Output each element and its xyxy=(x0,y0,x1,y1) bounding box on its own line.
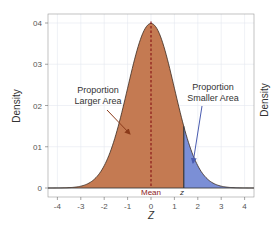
y-tick-label: 03 xyxy=(33,60,42,69)
larger-area-label-line2: Larger Area xyxy=(74,96,121,106)
z-label: z xyxy=(179,188,184,197)
x-axis-label: Z xyxy=(147,210,155,221)
x-tick-label: 4 xyxy=(242,202,247,211)
right-y-axis-label: Density xyxy=(259,83,270,116)
y-tick-label: 01 xyxy=(33,143,42,152)
x-tick-label: 2 xyxy=(196,202,201,211)
smaller-area-label-line1: Proportion xyxy=(192,82,234,92)
mean-label: Mean xyxy=(141,188,161,197)
normal-distribution-chart: -4-3-2-101234 001020304 Z Density Densit… xyxy=(0,0,271,228)
x-tick-label: -3 xyxy=(77,202,85,211)
y-tick-label: 04 xyxy=(33,19,42,28)
x-tick-label: -2 xyxy=(101,202,109,211)
x-tick-label: -4 xyxy=(54,202,62,211)
x-tick-labels: -4-3-2-101234 xyxy=(54,197,248,211)
y-tick-label: 0 xyxy=(38,184,43,193)
y-axis-label: Density xyxy=(11,89,22,122)
larger-area-label-line1: Proportion xyxy=(77,85,119,95)
smaller-area-label-line2: Smaller Area xyxy=(187,93,239,103)
x-tick-label: -1 xyxy=(124,202,132,211)
x-tick-label: 3 xyxy=(219,202,224,211)
y-tick-label: 02 xyxy=(33,102,42,111)
y-tick-labels: 001020304 xyxy=(33,19,48,193)
x-tick-label: 1 xyxy=(172,202,177,211)
